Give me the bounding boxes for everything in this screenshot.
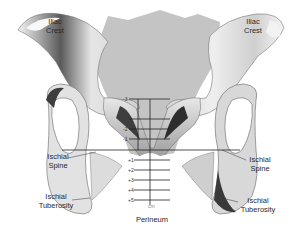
station-plus-5: +5 — [128, 197, 134, 203]
station-minus-1: -1 — [123, 136, 127, 142]
station-plus-2: +2 — [128, 167, 134, 173]
label-iliac-crest-left: Iliac Crest — [40, 17, 70, 35]
scale-unit: cm — [148, 203, 155, 209]
station-plus-3: +3 — [128, 177, 134, 183]
sacrum — [92, 10, 220, 160]
label-perineum: Perineum — [130, 215, 174, 224]
station-plus-1: +1 — [128, 157, 134, 163]
label-ischial-spine-right: Ischial Spine — [244, 155, 276, 173]
label-ischial-tuberosity-left: Ischial Tuberosity — [36, 192, 76, 210]
station-plus-4: +4 — [128, 187, 134, 193]
label-iliac-crest-right: Iliac Crest — [238, 17, 268, 35]
label-ischial-spine-left: Ischial Spine — [42, 152, 74, 170]
station-minus-3: -3 — [123, 96, 127, 102]
station-minus-2: -2 — [123, 126, 127, 132]
pelvis-diagram: -3 -2 -1 +1 +2 +3 +4 +5 cm Iliac Crest I… — [0, 0, 304, 234]
label-ischial-tuberosity-right: Ischial Tuberosity — [236, 196, 280, 214]
